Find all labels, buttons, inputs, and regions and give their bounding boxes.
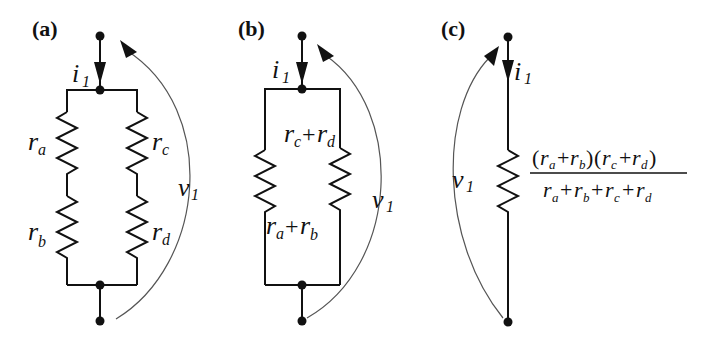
svg-text:+: +	[560, 177, 572, 202]
svg-text:(: (	[532, 145, 539, 170]
bottom-terminal-dot	[298, 317, 307, 326]
svg-text:d: d	[641, 157, 648, 172]
resistor-rc	[127, 112, 147, 196]
svg-text:a: a	[549, 157, 556, 172]
svg-text:a: a	[276, 225, 284, 242]
svg-text:+: +	[285, 213, 299, 239]
svg-text:r: r	[602, 145, 611, 170]
current-arrow-icon	[94, 62, 106, 84]
svg-text:r: r	[543, 177, 552, 202]
svg-text:a: a	[38, 141, 46, 158]
svg-text:1: 1	[282, 69, 290, 86]
svg-text:): )	[586, 145, 593, 170]
resistor-label-rc-plus-rd: r c + r d	[284, 119, 336, 150]
resistor-label-ra: r a	[28, 127, 46, 158]
svg-text:c: c	[614, 190, 620, 205]
panel-c: (c) i 1 v 1 ( r a + r b ) (	[441, 16, 687, 327]
resistor-label-rd: r d	[152, 217, 171, 248]
current-arrow-icon	[296, 62, 308, 84]
svg-text:1: 1	[386, 198, 394, 215]
current-label: i 1	[72, 59, 90, 90]
circuit-figure: (a) i 1 r a r b r c r	[0, 0, 715, 348]
panel-b: (b) i 1 r c + r d r a + r b	[238, 16, 394, 326]
resistor-label-rb: r b	[28, 217, 46, 250]
current-label: i 1	[514, 57, 532, 87]
svg-text:+: +	[302, 121, 316, 147]
svg-text:): )	[649, 145, 656, 170]
voltage-label: v 1	[452, 165, 474, 195]
svg-text:1: 1	[524, 70, 532, 87]
svg-text:r: r	[570, 145, 579, 170]
svg-text:i: i	[514, 57, 521, 86]
svg-text:r: r	[636, 177, 645, 202]
svg-text:c: c	[611, 157, 617, 172]
svg-text:v: v	[372, 185, 384, 214]
resistor-equivalent	[498, 150, 518, 322]
svg-text:v: v	[178, 173, 190, 202]
svg-text:c: c	[162, 141, 169, 158]
formula-numerator: ( r a + r b ) ( r c + r d )	[532, 145, 656, 172]
svg-text:r: r	[632, 145, 641, 170]
svg-text:b: b	[583, 190, 590, 205]
svg-text:b: b	[38, 233, 46, 250]
svg-text:b: b	[579, 157, 586, 172]
svg-text:+: +	[591, 177, 603, 202]
svg-text:r: r	[574, 177, 583, 202]
resistor-rc-plus-rd	[330, 148, 350, 285]
current-label: i 1	[272, 55, 290, 86]
equivalent-resistance-formula: ( r a + r b ) ( r c + r d ) r a + r	[530, 145, 687, 205]
svg-text:1: 1	[82, 73, 90, 90]
svg-text:c: c	[294, 133, 301, 150]
svg-text:+: +	[557, 145, 569, 170]
svg-text:(: (	[594, 145, 601, 170]
bottom-terminal-dot	[504, 318, 513, 327]
bottom-terminal-dot	[96, 317, 105, 326]
panel-b-label: (b)	[238, 16, 265, 41]
panel-c-label: (c)	[441, 16, 465, 41]
resistor-ra	[57, 112, 77, 196]
formula-denominator: r a + r b + r c + r d	[543, 177, 652, 205]
svg-text:a: a	[552, 190, 559, 205]
svg-text:r: r	[540, 145, 549, 170]
voltage-label: v 1	[178, 173, 199, 203]
svg-text:v: v	[452, 165, 464, 194]
svg-text:r: r	[605, 177, 614, 202]
svg-text:+: +	[622, 177, 634, 202]
svg-text:d: d	[162, 231, 171, 248]
svg-text:i: i	[272, 55, 279, 84]
svg-text:1: 1	[191, 186, 199, 203]
resistor-rb	[57, 196, 77, 285]
resistor-label-ra-plus-rb: r a + r b	[266, 211, 318, 243]
svg-text:1: 1	[466, 178, 474, 195]
panel-a-label: (a)	[32, 16, 58, 41]
panel-a: (a) i 1 r a r b r c r	[28, 16, 199, 326]
current-arrow-icon	[502, 60, 514, 82]
resistor-label-rc: r c	[152, 127, 169, 158]
voltage-arrow-icon	[484, 46, 499, 66]
svg-text:d: d	[327, 133, 336, 150]
resistor-rd	[127, 196, 147, 285]
voltage-label: v 1	[372, 185, 394, 215]
svg-text:+: +	[619, 145, 631, 170]
voltage-arc	[307, 55, 381, 318]
svg-text:b: b	[310, 226, 318, 243]
svg-text:d: d	[645, 190, 652, 205]
svg-text:i: i	[72, 59, 79, 88]
